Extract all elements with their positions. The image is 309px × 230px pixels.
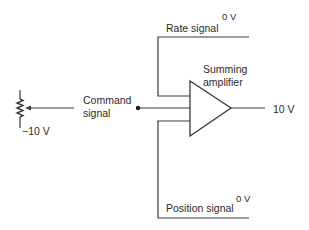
position-signal-label: Position signal xyxy=(166,202,234,214)
circuit-drawing xyxy=(0,0,309,230)
command-signal-label-1: Command xyxy=(83,94,131,106)
summing-amplifier-icon xyxy=(190,81,231,136)
summing-amplifier-label-1: Summing xyxy=(203,63,247,75)
summing-amplifier-label-2: amplifier xyxy=(203,76,243,88)
position-voltage-label: 0 V xyxy=(236,193,250,205)
wiper-arrowhead-icon xyxy=(25,106,31,111)
pot-voltage-label: −10 V xyxy=(22,125,50,137)
command-signal-label-2: signal xyxy=(83,107,110,119)
rate-voltage-label: 0 V xyxy=(222,11,236,23)
rate-signal-label: Rate signal xyxy=(166,22,219,34)
junction-dot xyxy=(136,106,140,110)
diagram-canvas: 0 V Rate signal Summing amplifier Comman… xyxy=(0,0,309,230)
resistor-icon xyxy=(17,99,23,117)
output-voltage-label: 10 V xyxy=(273,103,295,115)
